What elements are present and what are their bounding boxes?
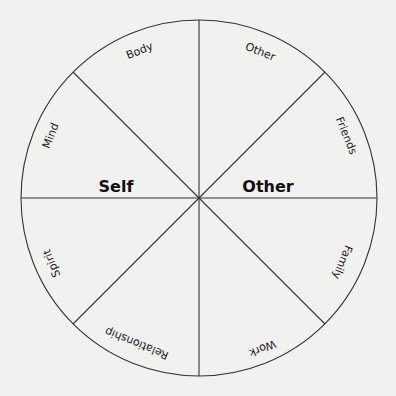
half-label-self: Self — [99, 177, 135, 196]
segment-label-relationship: Relationship — [103, 325, 170, 362]
half-label-other: Other — [242, 177, 293, 196]
segment-label-body: Body — [124, 39, 155, 62]
segment-label-other: Other — [243, 40, 277, 64]
segment-label-family: Family — [329, 243, 354, 281]
segment-label-work: Work — [246, 337, 277, 360]
segment-label-mind: Mind — [40, 121, 62, 150]
segment-label-spirit: Spirit — [40, 247, 63, 279]
wheel-diagram: Self Other Body Other Friends Family Wor… — [0, 0, 396, 396]
segment-label-friends: Friends — [333, 115, 360, 157]
